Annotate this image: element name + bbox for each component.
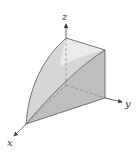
z-axis-label: z [61, 11, 68, 22]
x-axis [14, 124, 26, 136]
solid-diagram: z y x [0, 0, 138, 156]
y-axis [105, 98, 122, 102]
x-axis-label: x [7, 137, 13, 148]
y-axis-label: y [124, 98, 131, 109]
